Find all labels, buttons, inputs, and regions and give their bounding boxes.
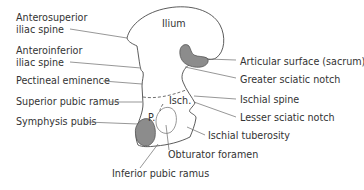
articular-surface-label: Articular surface (sacrum) [240,56,364,67]
ischium-label: Isch. [169,95,191,106]
pubis-label: P. [148,112,155,123]
greater-sciatic-notch-label: Greater sciatic notch [240,74,340,85]
anteroinferior-iliac-spine-leader [70,62,141,68]
inferior-pubic-ramus-label: Inferior pubic ramus [112,168,209,179]
anterosuperior-iliac-spine-label: Anterosuperior iliac spine [16,12,90,35]
lesser-sciatic-notch-label: Lesser sciatic notch [240,112,335,123]
superior-pubic-ramus-label: Superior pubic ramus [16,96,119,107]
hip-bone-diagram: Ilium Isch. P. Anterosuperior iliac spin… [0,0,364,190]
ischial-tuberosity-label: Ischial tuberosity [208,130,290,141]
greater-sciatic-notch-leader [185,67,236,78]
symphysis-pubis-label: Symphysis pubis [16,116,97,127]
lesser-sciatic-notch-leader [194,102,236,117]
ischial-spine-leader [194,96,236,99]
obturator-foramen-label: Obturator foramen [168,149,258,160]
anteroinferior-iliac-spine-label: Anteroinferior iliac spine [16,45,85,68]
pectineal-eminence-label: Pectineal eminence [16,75,110,86]
inferior-pubic-ramus-leader [140,144,158,168]
ischial-spine-label: Ischial spine [240,94,299,105]
ilium-label: Ilium [162,18,186,29]
anterosuperior-iliac-spine-leader [70,29,127,38]
